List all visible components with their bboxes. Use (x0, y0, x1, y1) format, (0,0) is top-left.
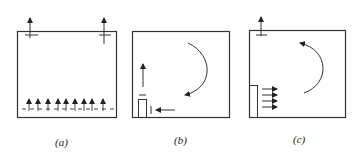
room-outline-a (18, 32, 117, 118)
inlet-unit (139, 100, 147, 118)
circulation-arrow-counterclockwise (300, 43, 323, 93)
room-outline-b (133, 32, 230, 118)
room-outline-c (250, 31, 346, 118)
panel-label-c: (c) (293, 133, 305, 145)
panel-c (250, 17, 346, 118)
circulation-arrow-clockwise (185, 43, 207, 95)
wall-supply-unit (250, 86, 258, 118)
exhaust-outlet-left (25, 18, 38, 38)
panel-label-a: (a) (55, 136, 68, 148)
panel-a (18, 18, 117, 118)
panel-label-b: (b) (174, 134, 187, 146)
displacement-supply-arrows (262, 89, 277, 107)
exhaust-outlet-c (256, 17, 267, 36)
panel-b (133, 32, 230, 118)
